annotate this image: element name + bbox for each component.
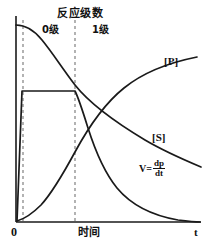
- chart-title: 反应级数: [57, 8, 103, 19]
- reaction-order-figure: 反应级数 0级 1级 [P] [S] V= dp dt 0 时间 t: [0, 0, 205, 248]
- curve-label-product: [P]: [164, 56, 178, 67]
- region-label-zero-order: 0级: [42, 25, 59, 35]
- rate-formula-fraction: dp dt: [153, 159, 165, 179]
- plot-area: [0, 0, 205, 248]
- rate-formula-numerator: dp: [153, 159, 165, 168]
- rate-formula-lhs: V=: [139, 164, 152, 174]
- curve-product: [17, 57, 197, 221]
- curve-substrate: [16, 25, 201, 167]
- curve-rate: [17, 91, 200, 222]
- x-axis-symbol: t: [194, 227, 198, 238]
- axis-origin-label: 0: [11, 226, 17, 238]
- rate-formula-denominator: dt: [154, 169, 164, 178]
- region-label-first-order: 1级: [92, 25, 109, 35]
- rate-formula: V= dp dt: [139, 159, 165, 179]
- x-axis-label: 时间: [78, 227, 100, 238]
- curve-label-substrate: [S]: [152, 132, 165, 143]
